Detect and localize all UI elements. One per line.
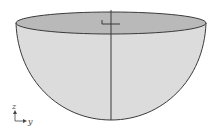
y-axis-label: y [27,117,33,126]
z-axis-label: z [11,102,17,111]
axes-indicator: z y [11,102,33,126]
hemisphere-diagram: z y [0,0,217,138]
